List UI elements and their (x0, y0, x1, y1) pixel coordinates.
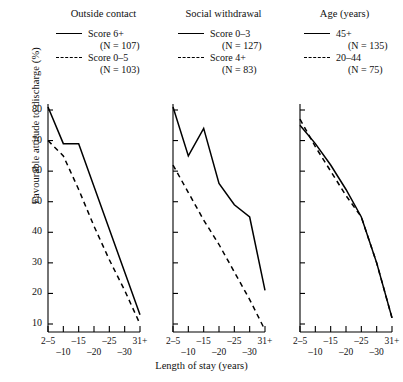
chart-figure: Favourable attitude to discharge (%) Len… (0, 0, 403, 382)
legend-entry: Score 6+ (54, 28, 140, 40)
legend-series-label: Score 0–3 (206, 28, 250, 39)
legend-line-solid-icon (54, 28, 84, 39)
x-axis-tick-label: 31+ (245, 336, 285, 346)
x-axis-tick-label: –30 (357, 347, 397, 357)
data-series-line (300, 125, 392, 318)
legend-series-label: Score 4+ (206, 52, 246, 63)
data-series-line (300, 119, 392, 318)
legend-line-solid-icon (302, 28, 332, 39)
legend-panel-2: Score 0–3 (N = 127) Score 4+ (N = 83) (176, 28, 262, 75)
y-axis-tick-label: 60 (2, 164, 42, 175)
data-series-line (48, 141, 140, 324)
legend-series-n: (N = 83) (176, 64, 262, 76)
y-axis-tick-label: 50 (2, 195, 42, 206)
legend-line-dashed-icon (54, 52, 84, 63)
data-series-line (48, 107, 140, 315)
y-axis-tick-label: 30 (2, 256, 42, 267)
legend-panel-3: 45+ (N = 135) 20–44 (N = 75) (302, 28, 388, 75)
panel-title-outside-contact: Outside contact (46, 8, 161, 19)
y-axis-tick-label: 20 (2, 286, 42, 297)
legend-entry: 20–44 (302, 52, 388, 64)
y-axis-tick-label: 70 (2, 134, 42, 145)
y-axis-title: Favourable attitude to discharge (%) (30, 6, 41, 246)
x-axis-title: Length of stay (years) (0, 360, 403, 371)
y-axis-tick-label: 40 (2, 225, 42, 236)
legend-entry: Score 0–5 (54, 52, 140, 64)
x-axis-tick-label: –30 (230, 347, 270, 357)
x-axis-tick-label: 31+ (372, 336, 403, 346)
legend-entry: 45+ (302, 28, 388, 40)
y-axis-tick-label: 80 (2, 103, 42, 114)
legend-series-n: (N = 75) (302, 64, 388, 76)
legend-series-n: (N = 107) (54, 40, 140, 52)
legend-line-solid-icon (176, 28, 206, 39)
legend-series-n: (N = 135) (302, 40, 388, 52)
legend-line-dashed-icon (176, 52, 206, 63)
legend-line-dashed-icon (302, 52, 332, 63)
legend-panel-1: Score 6+ (N = 107) Score 0–5 (N = 103) (54, 28, 140, 75)
panel-title-age: Age (years) (292, 8, 397, 19)
legend-series-n: (N = 103) (54, 64, 140, 76)
data-series-line (173, 107, 265, 290)
panel-title-social-withdrawal: Social withdrawal (166, 8, 281, 19)
legend-series-label: Score 6+ (84, 28, 124, 39)
legend-series-label: 20–44 (332, 52, 361, 63)
legend-series-label: 45+ (332, 28, 352, 39)
data-series-line (173, 165, 265, 330)
legend-series-n: (N = 127) (176, 40, 262, 52)
legend-entry: Score 0–3 (176, 28, 262, 40)
legend-series-label: Score 0–5 (84, 52, 128, 63)
y-axis-tick-label: 10 (2, 317, 42, 328)
legend-entry: Score 4+ (176, 52, 262, 64)
x-axis-tick-label: –30 (105, 347, 145, 357)
